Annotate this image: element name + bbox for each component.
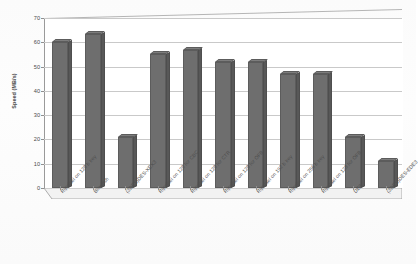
bar-front-face bbox=[215, 62, 231, 188]
bar-front-face bbox=[248, 62, 264, 188]
y-tick-label-50: 50 bbox=[24, 64, 40, 70]
bar-side-face bbox=[328, 72, 332, 188]
y-tick-label-10: 10 bbox=[24, 161, 40, 167]
bar-side-face bbox=[361, 135, 365, 188]
bar-front-face bbox=[280, 74, 296, 188]
bar-side-face bbox=[231, 60, 235, 188]
y-tick-label-40: 40 bbox=[24, 88, 40, 94]
y-tick-label-70: 70 bbox=[24, 15, 40, 21]
bar-front-face bbox=[118, 137, 134, 188]
x-axis-labels: Rijndael on 128 b keyBlowfish(3DES)DES-X… bbox=[44, 190, 416, 264]
bar-front-face bbox=[52, 42, 68, 188]
y-axis-title: Speed (MB/s) bbox=[11, 51, 17, 131]
y-tick-label-30: 30 bbox=[24, 112, 40, 118]
bar-front-face bbox=[313, 74, 329, 188]
bar-side-face bbox=[166, 52, 170, 188]
bar bbox=[52, 42, 68, 188]
bar bbox=[280, 74, 296, 188]
bar-side-face bbox=[101, 32, 105, 188]
bar bbox=[313, 74, 329, 188]
y-tick-label-60: 60 bbox=[24, 39, 40, 45]
bar bbox=[118, 137, 134, 188]
y-tick-label-20: 20 bbox=[24, 136, 40, 142]
bar bbox=[248, 62, 264, 188]
bar-side-face bbox=[296, 72, 300, 188]
y-tick-label-0: 0 bbox=[24, 185, 40, 191]
bar bbox=[215, 62, 231, 188]
bar-side-face bbox=[68, 40, 72, 188]
bar-side-face bbox=[198, 48, 202, 188]
bar-side-face bbox=[263, 60, 267, 188]
